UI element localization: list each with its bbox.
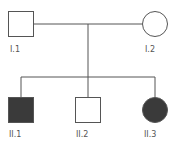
individual-I-2-female-circle[interactable] bbox=[143, 12, 168, 37]
label-I-2: I.2 bbox=[145, 45, 155, 54]
individual-II-1-affected-male-square[interactable] bbox=[9, 98, 34, 123]
label-II-2: II.2 bbox=[76, 130, 88, 139]
individual-II-2-male-square[interactable] bbox=[76, 98, 101, 123]
label-II-1: II.1 bbox=[9, 130, 21, 139]
label-II-3: II.3 bbox=[144, 130, 156, 139]
individual-II-3-affected-female-circle[interactable] bbox=[143, 98, 168, 123]
individual-I-1-male-square[interactable] bbox=[9, 12, 34, 37]
pedigree-diagram: I.1 I.2 II.1 II.2 II.3 bbox=[0, 0, 178, 146]
label-I-1: I.1 bbox=[10, 45, 20, 54]
